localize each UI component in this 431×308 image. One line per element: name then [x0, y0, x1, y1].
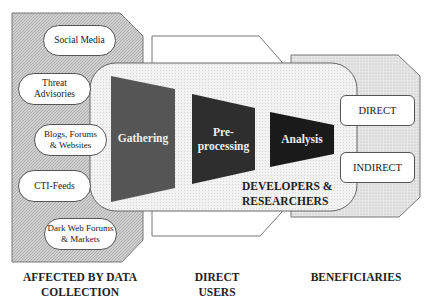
- beneficiaries-group-label: BENEFICIARIES: [300, 270, 412, 285]
- direct-users-group-label: DIRECT USERS: [177, 270, 257, 300]
- source-blogs-forums-websites: Blogs, Forums & Websites: [34, 124, 107, 156]
- source-dark-web: Dark Web Forums & Markets: [44, 218, 117, 250]
- beneficiary-indirect: INDIRECT: [340, 152, 415, 183]
- stage-gathering-label: Gathering: [111, 131, 175, 145]
- beneficiary-direct: DIRECT: [340, 95, 415, 126]
- stage-preprocessing-label: Pre- processing: [192, 125, 255, 153]
- source-social-media: Social Media: [43, 25, 116, 56]
- stage-analysis-label: Analysis: [270, 132, 334, 146]
- developers-researchers-label: DEVELOPERS & RESEARCHERS: [242, 179, 354, 209]
- source-cti-feeds: CTI-Feeds: [18, 170, 91, 202]
- source-threat-advisories: Threat Advisories: [18, 73, 91, 105]
- affected-group-label: AFFECTED BY DATA COLLECTION: [10, 270, 150, 300]
